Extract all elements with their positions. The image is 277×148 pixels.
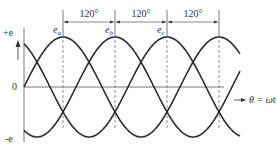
phase-spacing-label: 120°: [80, 8, 99, 19]
phase-labels: eaebec: [53, 24, 165, 37]
arrowhead-right-icon: [110, 20, 114, 23]
y-negative-label: -e: [5, 133, 13, 144]
x-axis-label: θ = ωt: [249, 94, 276, 105]
three-phase-waveform-diagram: 120°120°120° +e 0 -e θ = ωt eaebec: [0, 0, 277, 148]
arrowhead-left-icon: [168, 20, 172, 23]
phase-label-ea: ea: [53, 24, 61, 37]
arrowhead-right-icon: [162, 20, 166, 23]
phase-spacing-dimensions: 120°120°120°: [64, 8, 218, 24]
phase-label-eb: eb: [105, 24, 113, 37]
phase-spacing-label: 120°: [132, 8, 151, 19]
y-zero-label: 0: [12, 81, 17, 92]
arrowhead-right-icon: [214, 20, 218, 23]
y-positive-label: +e: [3, 27, 14, 38]
phase-spacing-label: 120°: [184, 8, 203, 19]
arrowhead-left-icon: [64, 20, 68, 23]
dashed-peak-markers: [63, 40, 219, 130]
x-axis-arrow-icon: [234, 98, 246, 102]
phase-label-ec: ec: [157, 24, 165, 37]
y-axis-arrow-icon: [16, 40, 21, 60]
arrowhead-left-icon: [116, 20, 120, 23]
